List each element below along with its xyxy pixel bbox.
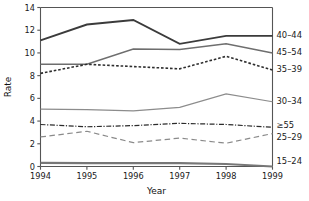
y-tick-label: 0: [30, 162, 35, 172]
x-tick-label: 1999: [262, 171, 283, 181]
series-line-30-34: [41, 94, 273, 111]
chart-container: 02468101214 199419951996199719981999 40–…: [0, 0, 309, 201]
series-label-15-24: 15–24: [277, 156, 303, 166]
series-label->=55: ≥55: [277, 120, 295, 130]
x-tick-label: 1995: [76, 171, 97, 181]
series-legend-labels: 40–4445–5435–3930–34≥5525–2915–24: [277, 30, 303, 165]
rate-by-age-group-line-chart: 02468101214 199419951996199719981999 40–…: [0, 0, 309, 201]
series-label-45-54: 45–54: [277, 47, 303, 57]
x-tick-label: 1996: [123, 171, 144, 181]
y-tick-label: 2: [30, 139, 35, 149]
y-tick-label: 14: [25, 3, 35, 13]
series-label-35-39: 35–39: [277, 64, 303, 74]
x-tick-label: 1998: [216, 171, 237, 181]
y-axis-ticks: 02468101214: [25, 3, 41, 172]
y-tick-label: 12: [25, 25, 35, 35]
series-line-45-54: [41, 44, 273, 64]
x-tick-label: 1997: [169, 171, 190, 181]
y-tick-label: 8: [30, 71, 35, 81]
series-label-40-44: 40–44: [277, 30, 303, 40]
y-tick-label: 4: [30, 116, 35, 126]
series-label-30-34: 30–34: [277, 96, 303, 106]
series-label-25-29: 25–29: [277, 132, 303, 142]
x-tick-label: 1994: [30, 171, 51, 181]
series-lines: [41, 20, 273, 167]
series-line->=55: [41, 123, 273, 127]
series-line-25-29: [41, 131, 273, 143]
y-tick-label: 10: [25, 48, 35, 58]
x-axis-title: Year: [146, 186, 166, 196]
y-axis-title: Rate: [3, 76, 13, 97]
series-line-40-44: [41, 20, 273, 44]
y-tick-label: 6: [30, 93, 35, 103]
x-axis-ticks: 199419951996199719981999: [30, 167, 283, 182]
